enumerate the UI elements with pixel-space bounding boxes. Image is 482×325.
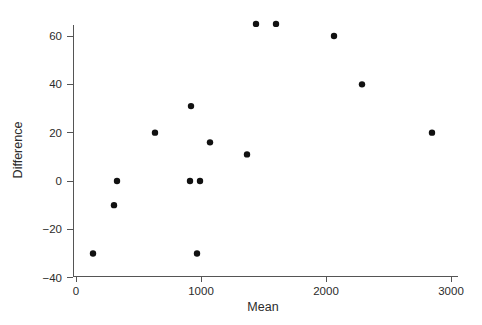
scatter-plot-figure: −40−200204060 0100020003000 Difference M…	[0, 0, 482, 325]
x-tick-label: 0	[73, 285, 79, 297]
x-axis-ticks: 0100020003000	[73, 276, 464, 297]
data-point	[197, 178, 203, 184]
data-point	[273, 21, 279, 27]
y-tick-label: 60	[49, 30, 62, 42]
data-point	[359, 81, 365, 87]
data-point	[244, 151, 250, 157]
data-point	[114, 178, 120, 184]
data-point	[152, 129, 158, 135]
y-tick-label: 20	[49, 127, 62, 139]
plot-canvas: −40−200204060 0100020003000 Difference M…	[0, 0, 482, 325]
y-axis-ticks: −40−200204060	[42, 30, 73, 284]
data-point	[90, 250, 96, 256]
y-tick-label: −20	[42, 223, 62, 235]
y-tick-label: 0	[56, 175, 62, 187]
y-tick-label: 40	[49, 78, 62, 90]
data-point	[187, 178, 193, 184]
y-axis-title: Difference	[11, 122, 25, 179]
x-tick-label: 3000	[438, 285, 464, 297]
data-point	[188, 103, 194, 109]
data-point	[429, 129, 435, 135]
data-point	[253, 21, 259, 27]
x-axis-title: Mean	[247, 300, 278, 314]
data-point	[111, 202, 117, 208]
x-tick-label: 1000	[188, 285, 214, 297]
x-tick-label: 2000	[313, 285, 339, 297]
y-tick-label: −40	[42, 272, 62, 284]
data-point	[331, 33, 337, 39]
data-point	[194, 250, 200, 256]
data-point	[207, 139, 213, 145]
axes	[73, 25, 458, 276]
data-points	[90, 21, 435, 257]
